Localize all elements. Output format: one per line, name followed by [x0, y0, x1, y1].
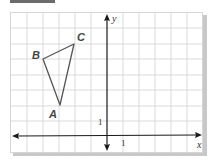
x-axis-left-arrow-icon [12, 133, 19, 139]
vertex-label-b: B [32, 49, 40, 61]
x-axis-label: x [196, 139, 202, 150]
y-axis-up-arrow-icon [104, 14, 110, 21]
coordinate-plane: y x 1 1 A B C [0, 0, 217, 160]
x-tick-label: 1 [121, 138, 126, 148]
y-axis-down-arrow-icon [104, 144, 110, 151]
y-tick-label: 1 [98, 117, 103, 127]
x-axis-right-arrow-icon [195, 132, 202, 138]
y-axis [104, 14, 110, 151]
vertex-label-a: A [48, 108, 57, 120]
y-axis-label: y [111, 13, 117, 24]
triangle-abc [43, 44, 74, 105]
vertex-label-c: C [77, 31, 86, 43]
